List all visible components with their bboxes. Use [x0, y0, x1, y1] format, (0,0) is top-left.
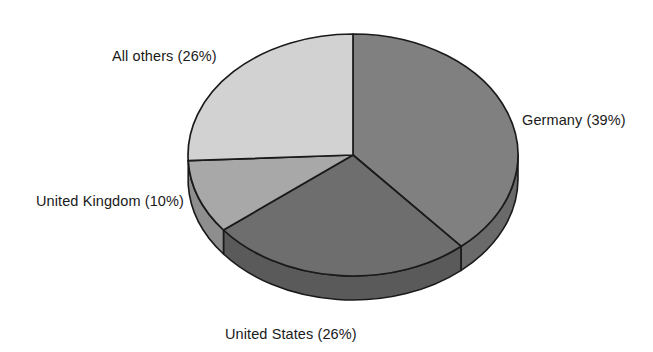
pie-label-germany: Germany (39%)	[522, 112, 626, 128]
pie-label-united-kingdom: United Kingdom (10%)	[36, 193, 184, 209]
pie-label-all-others: All others (26%)	[112, 48, 217, 64]
pie-top-face	[188, 34, 518, 276]
pie-chart-page: All others (26%) Germany (39%) United Ki…	[0, 0, 653, 352]
pie-chart-graphic	[0, 0, 653, 352]
pie-label-united-states: United States (26%)	[225, 326, 357, 342]
